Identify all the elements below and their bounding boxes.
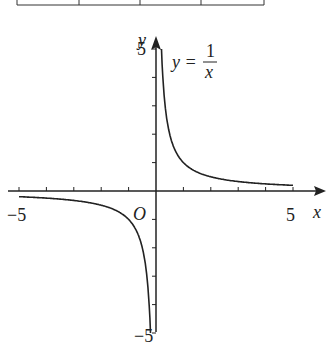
x-axis-label: x (312, 202, 321, 222)
x-max-label: 5 (286, 205, 295, 225)
equation-denominator: x (204, 62, 213, 82)
chart: −5 5 x O y 5 −5 y = 1 x (0, 0, 332, 349)
table-fragment (17, 0, 264, 5)
y-axis (151, 36, 161, 333)
equation-label: y = 1 x (170, 41, 217, 82)
curve-negative-branch (19, 197, 151, 333)
equation-numerator: 1 (206, 41, 215, 61)
y-min-label: −5 (134, 326, 153, 346)
equation-lhs: y = (170, 52, 197, 72)
x-axis (8, 186, 326, 196)
origin-label: O (133, 204, 146, 224)
x-min-label: −5 (7, 205, 26, 225)
y-max-label: 5 (137, 39, 146, 59)
